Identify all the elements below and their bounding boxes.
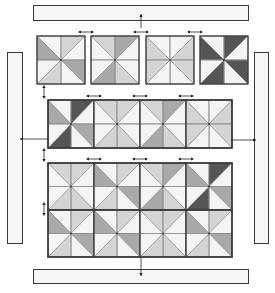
right-join-arrow-icon [231, 138, 256, 141]
quilt-block [186, 210, 232, 257]
quilt-block [94, 210, 140, 257]
pressing-arrow-horizontal-icon [86, 157, 102, 160]
left-border [8, 53, 23, 244]
pressing-arrow-vertical-icon [42, 148, 45, 162]
quilt-block [48, 100, 94, 148]
quilt-block [37, 36, 85, 84]
quilt-block [140, 210, 186, 257]
quilt-block [186, 163, 232, 210]
quilt-block [48, 163, 94, 210]
row-3-joined-strip [48, 163, 232, 210]
right-border [255, 53, 269, 244]
pressing-arrow-vertical-icon [42, 202, 45, 216]
left-join-arrow-icon [20, 137, 48, 140]
row-2-joined-strip [48, 100, 232, 148]
quilt-blocks [37, 36, 248, 257]
pressing-arrow-horizontal-icon [132, 94, 148, 97]
row-4-joined-strip [48, 210, 232, 257]
quilt-assembly-diagram [0, 0, 275, 293]
pressing-arrow-vertical-icon [42, 85, 45, 99]
pressing-arrow-horizontal-icon [187, 30, 203, 33]
bottom-join-arrow-icon [139, 258, 142, 276]
pressing-arrow-horizontal-icon [78, 30, 94, 33]
pressing-arrow-horizontal-icon [86, 94, 102, 97]
pressing-arrow-horizontal-icon [178, 94, 194, 97]
quilt-block [200, 36, 248, 84]
quilt-block [140, 100, 186, 148]
quilt-block [146, 36, 194, 84]
quilt-block [94, 163, 140, 210]
quilt-block [48, 210, 94, 257]
pressing-arrow-horizontal-icon [133, 30, 149, 33]
pressing-arrow-horizontal-icon [132, 157, 148, 160]
quilt-block [140, 163, 186, 210]
quilt-block [186, 100, 232, 148]
row-1-separate-blocks [37, 36, 248, 84]
pressing-arrow-horizontal-icon [178, 157, 194, 160]
quilt-block [94, 100, 140, 148]
quilt-block [91, 36, 139, 84]
